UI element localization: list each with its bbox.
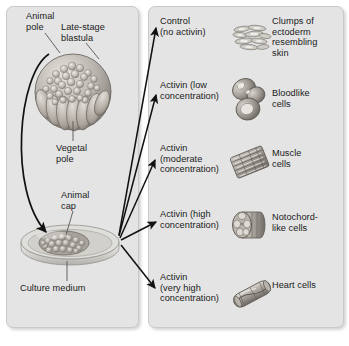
muscle-cells-illustration: [230, 143, 270, 183]
label-animal-pole: Animal pole: [26, 11, 54, 32]
label-result-notochord-like-cells: Notochord- like cells: [272, 212, 344, 233]
label-treatment-activin-moderate: Activin (moderate concentration): [160, 143, 236, 175]
label-animal-cap: Animal cap: [61, 190, 89, 211]
label-treatment-activin-low: Activin (low concentration): [160, 80, 242, 101]
label-result-ectoderm-clumps: Clumps of ectoderm resembling skin: [272, 16, 344, 58]
label-result-bloodlike-cells: Bloodlike cells: [272, 88, 344, 109]
ectoderm-clump-illustration: [232, 22, 272, 54]
label-vegetal-pole: Vegetal pole: [56, 143, 87, 164]
culture-dish-illustration: [18, 215, 122, 273]
label-treatment-control: Control (no activin): [160, 16, 238, 37]
label-culture-medium: Culture medium: [20, 283, 86, 294]
label-treatment-activin-very-high: Activin (very high concentration): [160, 272, 240, 304]
label-late-stage-blastula: Late-stage blastula: [61, 22, 105, 43]
label-result-muscle-cells: Muscle cells: [272, 148, 344, 169]
label-treatment-activin-high: Activin (high concentration): [160, 209, 240, 230]
label-result-heart-cells: Heart cells: [272, 280, 344, 291]
blastula-illustration: [30, 48, 116, 134]
figure-activin-gradient-experiment: Animal pole Late-stage blastula Vegetal …: [0, 0, 349, 346]
